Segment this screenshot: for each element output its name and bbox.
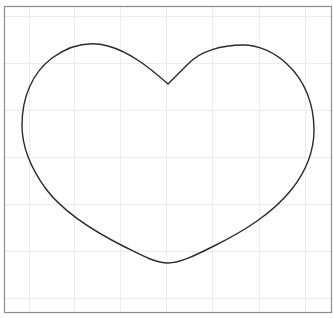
diagram-canvas <box>0 0 333 318</box>
